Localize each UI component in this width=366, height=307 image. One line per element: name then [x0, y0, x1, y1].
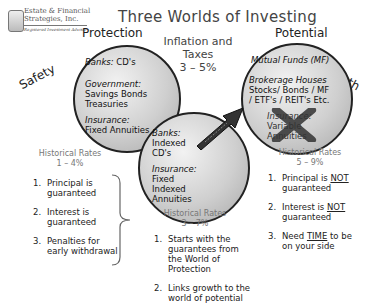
fixed-label: Fixed	[152, 174, 174, 184]
list-item: 2.Links growth to the world of potential	[154, 283, 254, 303]
fixed-annuities: Fixed Annuities	[85, 125, 149, 135]
item-text: Links growth to the world of potential	[168, 283, 250, 303]
middle-points: 1.Starts with the guarantees from the Wo…	[154, 234, 254, 307]
item-number: 2.	[154, 283, 162, 293]
rates-label: Historical Rates	[30, 149, 110, 159]
item-text: guaranteed	[282, 183, 331, 193]
potential-header: Potential	[275, 26, 328, 40]
item-text: guaranteed	[282, 212, 331, 222]
emphasis-text: NOT	[327, 202, 345, 212]
diagram-title: Three Worlds of Investing	[118, 8, 317, 26]
emphasis-text: TIME	[307, 231, 327, 241]
item-number: 3.	[33, 236, 41, 246]
item-number: 1.	[268, 173, 276, 183]
middle-rates: Historical Rates 3 – 7%	[155, 209, 235, 229]
protection-government: Government: Savings Bonds Treasuries	[85, 79, 147, 109]
banks-label: Banks:	[85, 57, 114, 67]
logo-line-1: Estate & Financial	[24, 7, 90, 15]
item-text: Principal is	[282, 173, 330, 183]
brokerage-items-2: / ETF's / REIT's Etc.	[249, 95, 330, 105]
item-number: 1.	[33, 178, 41, 188]
rates-value: 5 – 9%	[270, 158, 350, 168]
protection-points: 1.Principal is guaranteed 2.Interest is …	[33, 178, 118, 265]
brace-icon	[110, 173, 132, 267]
brokerage-label: Brokerage Houses	[249, 75, 327, 85]
protection-rates: Historical Rates 1 – 4%	[30, 149, 110, 169]
item-number: 2.	[268, 202, 276, 212]
rates-value: 3 – 7%	[155, 219, 235, 229]
cross-out-icon	[270, 108, 318, 142]
item-number: 2.	[33, 207, 41, 217]
protection-header: Protection	[82, 26, 143, 40]
banks-label: Banks:	[152, 128, 181, 138]
logo-emblem-icon	[8, 10, 24, 32]
banks-cds: CD's	[116, 57, 135, 67]
list-item: 3.Penalties for early withdrawal	[33, 236, 118, 256]
savings-bonds: Savings Bonds	[85, 89, 147, 99]
rates-label: Historical Rates	[155, 209, 235, 219]
indexed-label: Indexed	[152, 184, 186, 194]
potential-mutual-funds: Mutual Funds (MF)	[251, 55, 329, 65]
logo-tagline: Registered Investment Advisor	[24, 25, 87, 32]
government-label: Government:	[85, 79, 141, 89]
list-item: 1.Principal is NOT guaranteed	[268, 173, 358, 193]
company-logo: Estate & Financial Strategies, Inc. Regi…	[6, 4, 76, 36]
potential-brokerage: Brokerage Houses Stocks/ Bonds / MF / ET…	[249, 75, 330, 105]
item-number: 1.	[154, 234, 162, 244]
brokerage-items-1: Stocks/ Bonds / MF	[249, 85, 329, 95]
mutual-funds-label: Mutual Funds (MF)	[251, 55, 329, 65]
growth-arrow-icon	[193, 106, 249, 150]
list-item: 1.Starts with the guarantees from the Wo…	[154, 234, 254, 274]
middle-banks: Banks: Indexed CD's	[152, 128, 186, 158]
inflation-label: Inflation and Taxes	[148, 35, 248, 61]
list-item: 3.Need TIME to be on your side	[268, 231, 358, 251]
protection-insurance: Insurance: Fixed Annuities	[85, 115, 149, 135]
protection-banks: Banks: CD's	[85, 57, 136, 67]
potential-points: 1.Principal is NOT guaranteed 2.Interest…	[268, 173, 358, 260]
logo-line-2: Strategies, Inc.	[24, 15, 78, 23]
indexed-label: Indexed	[152, 138, 186, 148]
safety-label: Safety	[17, 62, 57, 92]
item-text: Penalties for early withdrawal	[47, 236, 118, 256]
middle-insurance: Insurance: Fixed Indexed Annuities	[152, 164, 197, 204]
emphasis-text: NOT	[330, 173, 348, 183]
insurance-label: Insurance:	[152, 164, 197, 174]
item-text: Interest is guaranteed	[47, 207, 96, 227]
potential-rates: Historical Rates 5 – 9%	[270, 148, 350, 168]
rates-value: 1 – 4%	[30, 159, 110, 169]
list-item: 2.Interest is guaranteed	[33, 207, 118, 227]
item-text: Principal is guaranteed	[47, 178, 96, 198]
item-text: Interest is	[282, 202, 327, 212]
item-number: 3.	[268, 231, 276, 241]
item-text: Starts with the guarantees from the Worl…	[168, 234, 239, 274]
list-item: 2.Interest is NOT guaranteed	[268, 202, 358, 222]
insurance-label: Insurance:	[85, 115, 130, 125]
item-text: Need	[282, 231, 307, 241]
cds-label: CD's	[152, 148, 171, 158]
list-item: 1.Principal is guaranteed	[33, 178, 118, 198]
rates-label: Historical Rates	[270, 148, 350, 158]
treasuries: Treasuries	[85, 99, 128, 109]
annuities-label: Annuities	[152, 194, 192, 204]
